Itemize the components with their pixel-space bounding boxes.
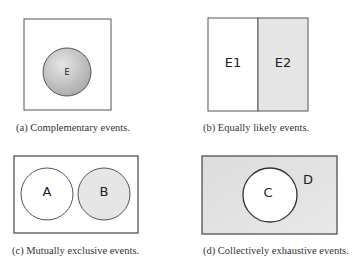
panel-d-collectively-exhaustive: C D (d) Collectively exhaustive events. xyxy=(202,156,349,257)
event-a-label: A xyxy=(43,184,52,199)
event-b-label: B xyxy=(100,184,109,199)
region-e1-label: E1 xyxy=(225,55,242,70)
event-d-label: D xyxy=(303,172,313,187)
panel-b-equally-likely: E1 E2 (b) Equally likely events. xyxy=(203,18,309,134)
caption-b: (b) Equally likely events. xyxy=(203,122,309,134)
region-e2-label: E2 xyxy=(275,55,292,70)
caption-d: (d) Collectively exhaustive events. xyxy=(203,245,349,257)
panel-c-mutually-exclusive: A B (c) Mutually exclusive events. xyxy=(12,156,139,257)
venn-diagrams-figure: E (a) Complementary events. E1 E2 (b) Eq… xyxy=(0,0,357,277)
caption-a: (a) Complementary events. xyxy=(16,122,130,134)
caption-c: (c) Mutually exclusive events. xyxy=(12,245,139,257)
panel-a-complementary: E (a) Complementary events. xyxy=(16,19,130,134)
event-e-label: E xyxy=(64,68,69,77)
event-c-label: C xyxy=(263,185,272,200)
